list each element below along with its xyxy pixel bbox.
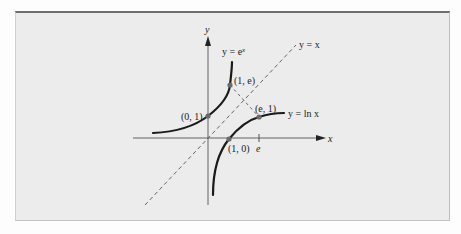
point-1-e bbox=[227, 82, 232, 87]
identity-line bbox=[145, 45, 296, 205]
point-e-1-label: (e, 1) bbox=[255, 103, 276, 115]
exp-curve bbox=[153, 62, 232, 133]
e-tick-label: e bbox=[256, 143, 261, 154]
point-0-1-label: (0, 1) bbox=[181, 111, 203, 123]
point-0-1 bbox=[205, 113, 210, 118]
y-axis bbox=[205, 36, 211, 205]
identity-line-label: y = x bbox=[299, 39, 320, 50]
point-1-e-label: (1, e) bbox=[234, 75, 255, 87]
figure: y x e y = ex y = ln x y = x (0, 1) (1, e… bbox=[0, 0, 461, 234]
ln-curve bbox=[213, 113, 284, 195]
ln-curve-label: y = ln x bbox=[288, 108, 319, 119]
point-e-1 bbox=[256, 114, 261, 119]
y-axis-label: y bbox=[204, 24, 210, 35]
point-1-0-label: (1, 0) bbox=[228, 143, 250, 155]
graph-canvas: y x e y = ex y = ln x y = x (0, 1) (1, e… bbox=[0, 0, 461, 234]
exp-curve-label: y = ex bbox=[222, 46, 246, 57]
x-axis-label: x bbox=[327, 133, 333, 144]
point-1-0 bbox=[226, 136, 231, 141]
